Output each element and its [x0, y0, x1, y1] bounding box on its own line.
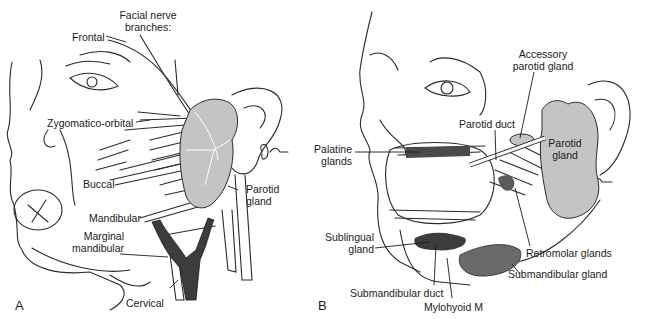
- label-sublingual-line1: Sublingual: [304, 231, 374, 243]
- label-marginal-line1: Marginal: [62, 230, 124, 242]
- panel-a-facial-nerve: Facial nerve branches: Frontal Zygomatic…: [0, 0, 320, 319]
- label-retromolar-glands: Retromolar glands: [526, 247, 612, 259]
- sublingual-gland-shape: [414, 233, 465, 251]
- label-cervical: Cervical: [126, 297, 164, 309]
- panel-letter-b: B: [318, 298, 327, 313]
- cervical-branch-shape: [152, 218, 214, 300]
- label-parotid-gland-a: Parotid gland: [246, 183, 279, 207]
- label-palatine-line2: glands: [282, 155, 352, 167]
- label-zygomatico-orbital: Zygomatico-orbital: [47, 117, 133, 129]
- label-facial-nerve-branches: Facial nerve branches:: [112, 9, 184, 33]
- facial-nerve-illustration: [0, 0, 320, 319]
- label-accessory-line1: Accessory: [508, 48, 578, 60]
- label-facial-nerve-line1: Facial nerve: [112, 9, 184, 21]
- panel-letter-a: A: [15, 298, 24, 313]
- label-frontal: Frontal: [72, 31, 105, 43]
- label-parotid-line2: gland: [246, 195, 279, 207]
- label-parotid-duct: Parotid duct: [459, 118, 515, 130]
- label-accessory-parotid-gland: Accessory parotid gland: [508, 48, 578, 72]
- label-mandibular: Mandibular: [89, 212, 141, 224]
- label-parotid-gland-b: Parotid gland: [542, 137, 588, 161]
- label-mylohyoid-muscle: Mylohyoid M: [424, 301, 483, 313]
- label-accessory-line2: parotid gland: [508, 60, 578, 72]
- label-submandibular-gland: Submandibular gland: [508, 268, 607, 280]
- label-parotid-line2-b: gland: [542, 149, 588, 161]
- label-palatine-glands: Palatine glands: [282, 143, 352, 167]
- label-sublingual-gland: Sublingual gland: [304, 231, 374, 255]
- label-submandibular-duct: Submandibular duct: [350, 287, 443, 299]
- parotid-gland-shape-a: [180, 99, 238, 208]
- label-marginal-line2: mandibular: [62, 242, 124, 254]
- label-palatine-line1: Palatine: [282, 143, 352, 155]
- label-marginal-mandibular: Marginal mandibular: [62, 230, 124, 254]
- label-parotid-line1: Parotid: [246, 183, 279, 195]
- panel-b-salivary-glands: Accessory parotid gland Parotid duct Par…: [320, 0, 647, 319]
- label-facial-nerve-line2: branches:: [112, 21, 184, 33]
- retromolar-glands-shape: [498, 175, 514, 190]
- label-buccal: Buccal: [83, 178, 115, 190]
- label-sublingual-line2: gland: [304, 243, 374, 255]
- label-parotid-line1-b: Parotid: [542, 137, 588, 149]
